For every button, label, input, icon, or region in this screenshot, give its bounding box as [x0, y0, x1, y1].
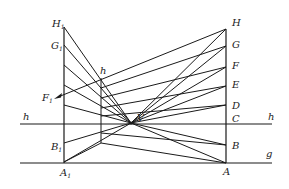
- f1-arrow-icon: [54, 93, 62, 99]
- label-H1: H1: [51, 18, 65, 30]
- label-h-middle: h: [100, 65, 106, 76]
- label-A1: A1: [59, 167, 71, 179]
- left-to-v-lines: [64, 27, 131, 162]
- label-F1: F1: [41, 92, 53, 104]
- label-B: B: [231, 140, 239, 151]
- label-H: H: [231, 17, 241, 28]
- right-to-v-lines: [131, 29, 226, 163]
- f1-line: [58, 29, 226, 97]
- vanishing-point: [129, 121, 132, 124]
- label-g: g: [266, 148, 272, 159]
- label-C: C: [232, 113, 240, 124]
- label-D: D: [231, 100, 240, 111]
- label-G1: G1: [51, 40, 63, 52]
- right-to-middle-lines: [64, 46, 226, 163]
- label-h-left: h: [23, 111, 29, 122]
- label-h-right: h: [268, 111, 274, 122]
- label-G: G: [232, 39, 240, 50]
- label-B1: B1: [50, 141, 62, 153]
- perspective-diagram: H G F E D C B A h g H1 G1 B1 A1 F1 h h V: [0, 0, 289, 189]
- label-A: A: [222, 166, 230, 177]
- label-F: F: [231, 60, 240, 71]
- label-E: E: [231, 79, 240, 90]
